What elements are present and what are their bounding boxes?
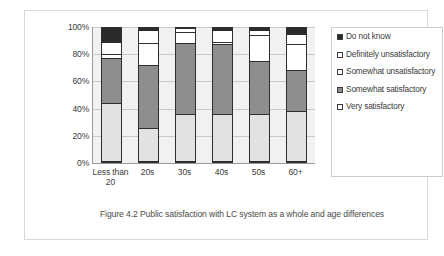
y-axis-tick: 40% bbox=[59, 105, 89, 113]
bar-segment bbox=[176, 33, 195, 44]
bar-segment bbox=[139, 44, 158, 65]
legend-item: Definitely unsatisfactory bbox=[337, 50, 439, 60]
figure-caption: Figure 4.2 Public satisfaction with LC s… bbox=[59, 208, 425, 220]
stacked-bar bbox=[212, 27, 233, 163]
square-outline-icon bbox=[337, 104, 343, 110]
legend-item-label: Do not know bbox=[346, 32, 390, 42]
x-axis: Less than 2020s30s40s50s60+ bbox=[92, 167, 314, 187]
chart-legend: Do not knowDefinitely unsatisfactorySome… bbox=[331, 27, 443, 177]
legend-item-label: Somewhat unsatisfactory bbox=[346, 67, 435, 77]
bar-segment bbox=[287, 45, 306, 70]
bar-segment bbox=[102, 43, 121, 55]
stacked-bar bbox=[101, 27, 122, 163]
bar-segment bbox=[176, 115, 195, 162]
legend-item: Somewhat satisfactory bbox=[337, 85, 439, 95]
bar-segment bbox=[213, 31, 232, 43]
y-axis-tick: 0% bbox=[59, 159, 89, 167]
bar-segment bbox=[250, 62, 269, 116]
bar-segment bbox=[102, 104, 121, 162]
square-outline-icon bbox=[337, 52, 343, 58]
bar-segment bbox=[139, 31, 158, 44]
stacked-bar bbox=[175, 27, 196, 163]
legend-item: Somewhat unsatisfactory bbox=[337, 67, 439, 77]
legend-item-label: Very satisfactory bbox=[346, 102, 404, 112]
y-axis-tick: 20% bbox=[59, 132, 89, 140]
x-axis-tick: 20s bbox=[129, 167, 166, 187]
bar-segment bbox=[287, 112, 306, 162]
x-axis-tick: 60+ bbox=[277, 167, 314, 187]
stacked-bar bbox=[138, 27, 159, 163]
chart-plot-wrapper: 100%80%60%40%20%0% Less than 2020s30s40s… bbox=[59, 27, 317, 175]
bar-segment bbox=[213, 45, 232, 115]
x-axis-tick: Less than 20 bbox=[92, 167, 129, 187]
legend-item: Very satisfactory bbox=[337, 102, 439, 112]
bar-segment bbox=[176, 44, 195, 115]
y-axis: 100%80%60%40%20%0% bbox=[59, 27, 89, 163]
stacked-bar bbox=[286, 27, 307, 163]
bar-group bbox=[93, 27, 315, 163]
bar-segment bbox=[287, 71, 306, 113]
figure-frame: 100%80%60%40%20%0% Less than 2020s30s40s… bbox=[24, 10, 428, 240]
square-filled-icon bbox=[337, 34, 343, 40]
bar-segment bbox=[250, 36, 269, 61]
bar-segment bbox=[250, 115, 269, 162]
x-axis-tick: 30s bbox=[166, 167, 203, 187]
legend-item-label: Definitely unsatisfactory bbox=[346, 50, 430, 60]
y-axis-tick: 80% bbox=[59, 50, 89, 58]
bar-segment bbox=[102, 28, 121, 43]
figure-container: 100%80%60%40%20%0% Less than 2020s30s40s… bbox=[0, 0, 444, 256]
x-axis-tick: 40s bbox=[203, 167, 240, 187]
square-filled-icon bbox=[337, 87, 343, 93]
plot-area bbox=[92, 27, 315, 164]
bar-segment bbox=[287, 35, 306, 46]
y-axis-tick: 60% bbox=[59, 77, 89, 85]
stacked-bar bbox=[249, 27, 270, 163]
bar-segment bbox=[139, 129, 158, 163]
bar-segment bbox=[139, 66, 158, 129]
legend-item-label: Somewhat satisfactory bbox=[346, 85, 426, 95]
x-axis-tick: 50s bbox=[240, 167, 277, 187]
bar-segment bbox=[102, 59, 121, 105]
bar-segment bbox=[287, 28, 306, 35]
bar-segment bbox=[213, 115, 232, 162]
y-axis-tick: 100% bbox=[59, 23, 89, 31]
legend-item: Do not know bbox=[337, 32, 439, 42]
square-outline-icon bbox=[337, 69, 343, 75]
